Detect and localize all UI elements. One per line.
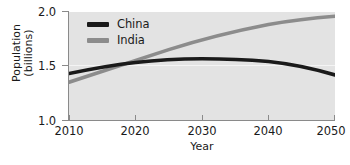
legend-label-india: India: [117, 33, 145, 47]
y-tick-1.5: [62, 65, 68, 66]
y-axis-line: [68, 11, 69, 121]
legend: China India: [87, 16, 149, 48]
legend-item-india: India: [87, 32, 149, 48]
x-tick-label-2050: 2050: [309, 124, 350, 138]
x-tick-2030: [202, 115, 203, 121]
y-tick-1.0: [62, 120, 68, 121]
y-tick-2.0: [62, 11, 68, 12]
legend-item-china: China: [87, 16, 149, 32]
y-axis-title: Population (billions): [0, 8, 46, 98]
x-tick-label-2020: 2020: [113, 124, 157, 138]
legend-label-china: China: [117, 17, 149, 31]
plot-area: China India: [69, 12, 335, 120]
x-tick-label-2010: 2010: [47, 124, 91, 138]
x-tick-2050: [334, 115, 335, 121]
y-axis-title-line2: (billions): [23, 29, 35, 76]
x-axis-title: Year: [69, 140, 335, 153]
x-tick-2040: [268, 115, 269, 121]
line-china: [69, 59, 335, 75]
x-tick-label-2040: 2040: [246, 124, 290, 138]
x-tick-2010: [69, 115, 70, 121]
legend-swatch-china: [87, 22, 109, 27]
x-tick-2020: [135, 115, 136, 121]
x-tick-label-2030: 2030: [180, 124, 224, 138]
legend-swatch-india: [87, 38, 109, 43]
